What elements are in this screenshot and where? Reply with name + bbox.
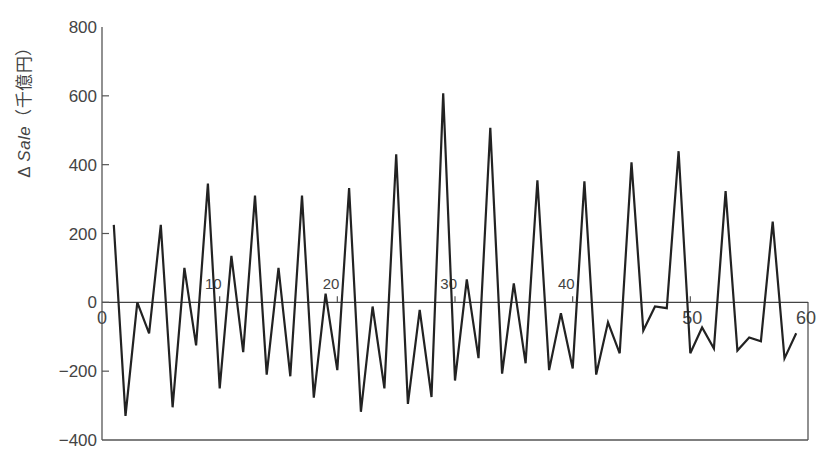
y-tick-label: 200 (69, 225, 97, 244)
y-tick-label: 800 (69, 18, 97, 37)
x-tick-label: 20 (323, 275, 340, 292)
y-tick-label: 0 (88, 293, 97, 312)
x-tick-label: 30 (440, 275, 457, 292)
x-tick-label: 50 (682, 308, 702, 328)
y-tick-label: −200 (59, 362, 97, 381)
x-tick-label: 60 (796, 308, 816, 328)
x-tick-label: 40 (558, 275, 575, 292)
data-line (114, 93, 796, 416)
y-tick-label: 600 (69, 87, 97, 106)
y-tick-label: −400 (59, 431, 97, 450)
x-tick-label: 0 (97, 308, 107, 328)
y-tick-label: 400 (69, 156, 97, 175)
line-chart: −400−2000200400600800 0102030405060 (0, 0, 830, 460)
